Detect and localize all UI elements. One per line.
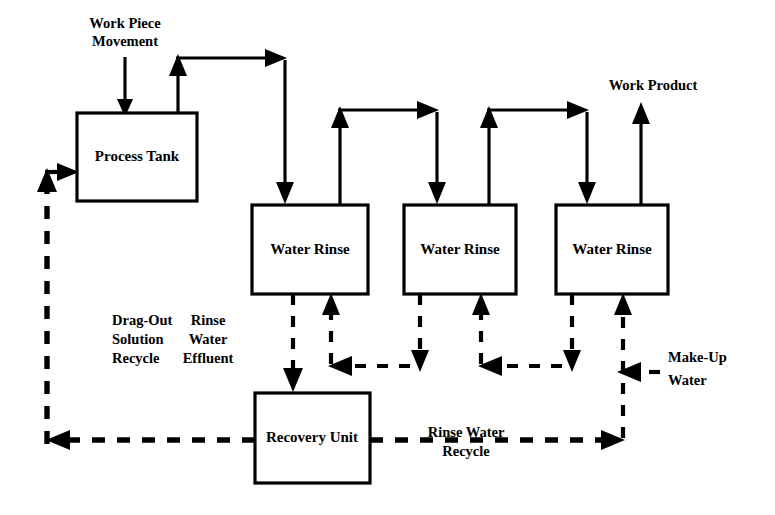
effluent-line-2: Water xyxy=(189,331,228,347)
box-water-rinse-1[interactable]: Water Rinse xyxy=(252,205,368,294)
label-make-up-water: Make-Up Water xyxy=(668,349,727,388)
make-up-water-line-2: Water xyxy=(668,372,707,388)
water-transfer-rinse3-to-rinse2 xyxy=(472,293,581,376)
box-water-rinse-2[interactable]: Water Rinse xyxy=(404,205,516,294)
drag-out-line-1: Drag-Out xyxy=(112,312,173,328)
water-riser-into-rinse3 xyxy=(614,293,632,438)
box-process-tank[interactable]: Process Tank xyxy=(77,113,197,201)
label-work-product: Work Product xyxy=(609,77,698,93)
box-water-rinse-3[interactable]: Water Rinse xyxy=(556,205,668,294)
rinse-water-effluent-line xyxy=(283,294,303,392)
box-label-recovery-unit: Recovery Unit xyxy=(266,429,358,445)
work-piece-inlet-arrow xyxy=(117,57,133,117)
water-transfer-rinse2-to-rinse1 xyxy=(322,293,429,376)
work-piece-arc-rinse1-to-rinse2 xyxy=(331,101,446,205)
work-product-line-1: Work Product xyxy=(609,77,698,93)
work-piece-outlet-arrow xyxy=(632,102,650,205)
label-work-piece-movement: Work Piece Movement xyxy=(89,15,161,49)
drag-out-line-2: Solution xyxy=(112,331,164,347)
effluent-line-1: Rinse xyxy=(191,312,226,328)
box-label-process-tank: Process Tank xyxy=(95,148,180,164)
effluent-line-3: Effluent xyxy=(183,350,234,366)
box-label-water-rinse-3: Water Rinse xyxy=(572,241,652,257)
flow-diagram-canvas: Process Tank Water Rinse Water Rinse Wat… xyxy=(0,0,775,515)
work-piece-movement-line-2: Movement xyxy=(92,33,158,49)
drag-out-solution-recycle-line xyxy=(37,163,255,450)
box-label-water-rinse-1: Water Rinse xyxy=(270,241,350,257)
label-rinse-water-effluent: Rinse Water Effluent xyxy=(183,312,234,366)
work-piece-arc-rinse2-to-rinse3 xyxy=(480,101,596,205)
drag-out-line-3: Recycle xyxy=(112,350,160,366)
label-rinse-water-recycle: Rinse Water Recycle xyxy=(428,424,505,459)
label-drag-out-solution-recycle: Drag-Out Solution Recycle xyxy=(112,312,173,366)
recycle-line-2: Recycle xyxy=(442,443,490,459)
box-recovery-unit[interactable]: Recovery Unit xyxy=(255,393,370,483)
box-label-water-rinse-2: Water Rinse xyxy=(420,241,500,257)
work-piece-movement-line-1: Work Piece xyxy=(89,15,161,31)
recycle-line-1: Rinse Water xyxy=(428,424,505,440)
make-up-water-line-1: Make-Up xyxy=(668,349,727,365)
process-flow-diagram: Process Tank Water Rinse Water Rinse Wat… xyxy=(0,0,775,515)
